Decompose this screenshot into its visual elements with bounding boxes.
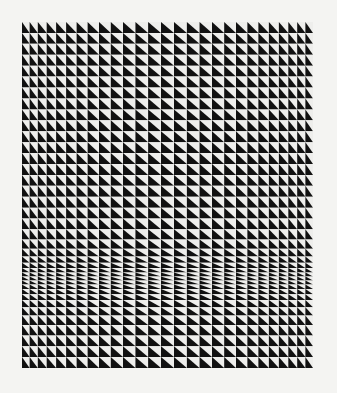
triangle-grid bbox=[22, 22, 313, 368]
op-art-triangle-grid bbox=[0, 0, 337, 393]
